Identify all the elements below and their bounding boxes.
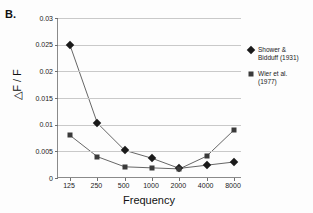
x-axis-tick-label: 250 — [90, 182, 102, 190]
figure-panel-b: B. 00.0050.010.0150.020.0250.03 12525050… — [0, 0, 313, 213]
y-axis-tick-label: 0.02 — [39, 68, 53, 75]
y-axis-tick-mark — [55, 98, 58, 99]
x-axis-tick-mark — [152, 178, 153, 181]
legend-label: Shower &Bidduff (1931) — [258, 44, 299, 61]
legend-marker — [247, 46, 255, 54]
y-axis-title: △F / F — [11, 40, 24, 130]
y-axis-tick-label: 0.005 — [35, 148, 53, 155]
y-axis-tick-label: 0.03 — [39, 15, 53, 22]
y-axis-tick-mark — [55, 18, 58, 19]
series-line-0 — [70, 45, 234, 168]
y-axis-tick-mark — [55, 71, 58, 72]
y-axis-tick-label: 0 — [49, 175, 53, 182]
legend-label-line2: Bidduff (1931) — [258, 54, 299, 62]
gridline — [58, 98, 241, 99]
chart-legend: Shower &Bidduff (1931)Wier et al.(1977) — [246, 44, 313, 92]
x-axis-tick-label: 2000 — [171, 182, 187, 190]
gridline — [58, 18, 241, 19]
y-axis-tick-label: 0.01 — [39, 121, 53, 128]
x-axis-tick-mark — [179, 178, 180, 181]
x-axis-tick-mark — [234, 178, 235, 181]
gridline — [58, 151, 241, 152]
x-axis-tick-mark — [70, 178, 71, 181]
legend-label-line1: Wier et al. — [258, 70, 287, 78]
x-axis-tick-mark — [97, 178, 98, 181]
legend-entry: Wier et al.(1977) — [246, 68, 313, 85]
legend-entry: Shower &Bidduff (1931) — [246, 44, 313, 61]
x-axis-tick-mark — [207, 178, 208, 181]
y-axis-tick-label: 0.015 — [35, 95, 53, 102]
legend-label-line2: (1977) — [258, 78, 287, 86]
legend-label-line1: Shower & — [258, 46, 299, 54]
plot-area — [57, 18, 241, 178]
y-axis-tick-mark — [55, 151, 58, 152]
x-axis-title: Frequency — [57, 194, 241, 206]
series-line-1 — [70, 130, 234, 169]
gridline — [58, 125, 241, 126]
x-axis-tick-label: 4000 — [198, 182, 214, 190]
y-axis-tick-mark — [55, 125, 58, 126]
legend-marker — [249, 72, 254, 77]
x-axis-tick-mark — [125, 178, 126, 181]
gridline — [58, 45, 241, 46]
legend-label: Wier et al.(1977) — [258, 68, 287, 85]
x-axis-tick-label: 500 — [118, 182, 130, 190]
y-axis-tick-label: 0.025 — [35, 41, 53, 48]
y-axis-tick-mark — [55, 178, 58, 179]
x-axis-tick-label: 8000 — [225, 182, 241, 190]
gridline — [58, 71, 241, 72]
legend-square-icon — [246, 68, 258, 82]
legend-diamond-icon — [246, 44, 258, 58]
x-axis-tick-label: 125 — [63, 182, 75, 190]
x-axis-tick-label: 1000 — [143, 182, 159, 190]
y-axis-tick-mark — [55, 45, 58, 46]
x-axis-tick-labels: 1252505001000200040008000 — [57, 182, 241, 194]
